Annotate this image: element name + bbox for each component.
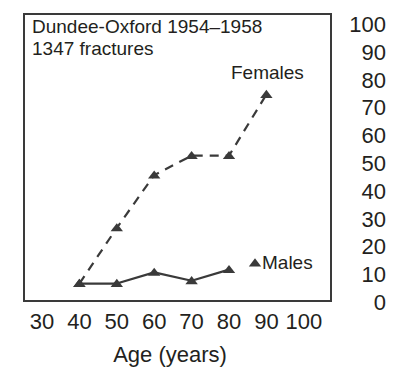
x-axis-title: Age (years): [0, 342, 340, 368]
series-males: [73, 265, 235, 287]
series-label-males: Males: [262, 252, 313, 274]
series-label-marker-males: [249, 258, 261, 266]
series-line-females: [79, 95, 266, 284]
chart-figure: Dundee-Oxford 1954–1958 1347 fractures F…: [0, 0, 397, 379]
series-females: [73, 90, 272, 287]
y-axis-tick-90: 90: [362, 42, 386, 64]
x-axis-tick-90: 90: [254, 311, 278, 333]
data-point-marker: [260, 90, 272, 98]
x-axis-tick-50: 50: [105, 311, 129, 333]
data-point-marker: [111, 223, 123, 231]
chart-subtitle: 1347 fractures: [32, 38, 262, 60]
data-point-marker: [223, 265, 235, 273]
y-axis-tick-30: 30: [362, 209, 386, 231]
y-axis-tick-40: 40: [362, 181, 386, 203]
x-axis-tick-30: 30: [30, 311, 54, 333]
x-axis-tick-70: 70: [179, 311, 203, 333]
y-axis-tick-70: 70: [362, 97, 386, 119]
y-axis-tick-60: 60: [362, 125, 386, 147]
series-label-females: Females: [231, 62, 304, 84]
chart-title: Dundee-Oxford 1954–1958: [32, 16, 262, 38]
x-axis-tick-60: 60: [142, 311, 166, 333]
y-axis-tick-100: 100: [349, 14, 386, 36]
data-point-marker: [148, 268, 160, 276]
y-axis-tick-80: 80: [362, 70, 386, 92]
x-axis-tick-100: 100: [285, 311, 322, 333]
x-axis-tick-labels: 30405060708090100: [0, 311, 397, 339]
y-axis-tick-50: 50: [362, 153, 386, 175]
data-point-marker: [223, 151, 235, 159]
x-axis-tick-40: 40: [67, 311, 91, 333]
y-axis-tick-10: 10: [362, 264, 386, 286]
chart-title-block: Dundee-Oxford 1954–1958 1347 fractures: [32, 16, 262, 61]
data-point-marker: [148, 170, 160, 178]
x-axis-tick-80: 80: [217, 311, 241, 333]
y-axis-tick-20: 20: [362, 236, 386, 258]
